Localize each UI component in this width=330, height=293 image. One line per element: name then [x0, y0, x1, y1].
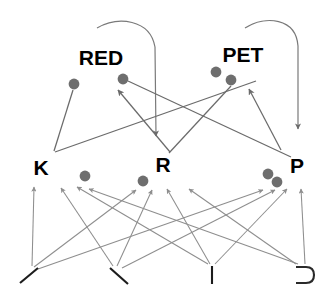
graph-svg: RED PET K R P	[0, 0, 330, 293]
edge-red-to-p-long	[128, 81, 291, 157]
dot-r-left	[138, 176, 149, 187]
node-label-red: RED	[79, 46, 123, 69]
edge-slash-to-k	[32, 187, 34, 266]
edge-r-to-red	[118, 90, 170, 152]
bottom-glyph-group	[20, 266, 314, 284]
edge-bar-to-p	[215, 189, 287, 264]
label-group: RED PET K R P	[33, 43, 304, 179]
dot-p-lower	[272, 177, 283, 188]
node-label-p: P	[290, 154, 304, 177]
edge-slash-to-r	[34, 190, 136, 267]
edge-backslash-to-k	[61, 188, 113, 266]
glyph-backslash	[110, 268, 128, 284]
dot-p-upper	[263, 169, 274, 180]
self-loop-pet-to-p	[245, 21, 298, 129]
dot-red-right	[118, 74, 129, 85]
dot-red-left	[69, 79, 80, 90]
node-label-k: K	[33, 156, 48, 179]
edge-slash-to-p	[38, 190, 263, 269]
lower-edge-group	[32, 187, 305, 269]
edge-r-to-pet	[169, 86, 231, 153]
edge-backslash-to-p	[122, 190, 275, 268]
dot-pet-right	[226, 75, 237, 86]
edge-rightbracket-to-k	[89, 189, 298, 264]
edge-p-to-pet	[249, 89, 281, 150]
glyph-slash	[20, 268, 38, 283]
node-label-pet: PET	[223, 43, 264, 66]
upper-edge-group	[54, 81, 291, 157]
node-label-r: R	[155, 153, 170, 176]
dot-pet-left	[211, 67, 222, 78]
glyph-right-bracket	[296, 267, 314, 283]
edge-rightbracket-to-r	[189, 189, 296, 264]
dot-k-right	[80, 171, 91, 182]
attachment-dot-group	[69, 67, 283, 188]
edge-rightbracket-to-p	[301, 189, 305, 264]
diagram-canvas: RED PET K R P	[0, 0, 330, 293]
edge-k-to-red	[54, 90, 73, 151]
